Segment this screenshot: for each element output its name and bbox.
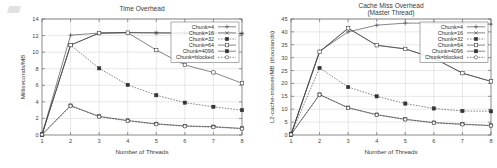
ytick-label-6: 30: [281, 55, 287, 61]
legend-marker-2: [225, 37, 228, 40]
xtick-label-1: 2: [318, 138, 321, 144]
ytick-label-8: 40: [281, 29, 287, 35]
data-point-lg-4: [474, 50, 477, 53]
xtick-label-3: 4: [126, 138, 129, 144]
xtick-label-3: 4: [375, 138, 378, 144]
data-point-5-0: [289, 133, 292, 136]
figure-container: Time Overhead0246810121412345678Number o…: [0, 0, 497, 168]
data-point-2-6: [212, 105, 215, 108]
data-point-5-2: [346, 106, 349, 109]
data-point-3-6: [212, 71, 215, 74]
data-point-5-1: [69, 104, 72, 107]
legend-label-1: Chunk=16: [437, 30, 462, 36]
ytick-label-0: 0: [35, 132, 38, 138]
series-line-4: [291, 95, 491, 135]
xtick-label-0: 1: [289, 138, 292, 144]
xtick-label-4: 5: [403, 138, 406, 144]
legend-label-4: Chunk=4096: [431, 48, 462, 54]
legend-marker-5: [474, 56, 477, 59]
data-point-3-3: [375, 44, 378, 47]
xtick-label-5: 6: [432, 138, 435, 144]
data-point-5-6: [460, 123, 463, 126]
xtick-label-2: 3: [346, 138, 349, 144]
xtick-label-2: 3: [98, 138, 101, 144]
scan-smudge-icon: [7, 6, 21, 13]
data-point-2-3: [126, 83, 129, 86]
ytick-label-9: 45: [281, 16, 287, 22]
xtick-label-6: 7: [212, 138, 215, 144]
legend-label-0: Chunk=4: [192, 24, 214, 30]
data-point-lg-5: [474, 56, 477, 59]
legend-marker-3: [225, 43, 228, 46]
data-point-3-2: [346, 27, 349, 30]
chart-subtitle-1: (Master Thread): [367, 9, 414, 17]
ytick-label-1: 2: [35, 115, 38, 121]
ytick-label-7: 14: [32, 16, 38, 22]
ytick-label-4: 8: [35, 66, 38, 72]
cache-miss-overhead-chart: Cache Miss Overhead(Master Thread)051015…: [249, 0, 497, 168]
data-point-3-6: [460, 71, 463, 74]
data-point-3-4: [403, 47, 406, 50]
series-line-5: [291, 95, 491, 135]
data-point-2-4: [403, 102, 406, 105]
chart-title-0: Time Overhead: [119, 5, 165, 12]
ytick-label-3: 15: [281, 93, 287, 99]
data-point-5-6: [212, 125, 215, 128]
ytick-label-2: 4: [35, 99, 38, 105]
xtick-label-5: 6: [183, 138, 186, 144]
data-point-5-5: [183, 125, 186, 128]
series-line-4: [42, 106, 242, 135]
data-point-lg-5: [225, 56, 228, 59]
data-point-5-7: [489, 124, 492, 127]
ytick-label-0: 0: [284, 132, 287, 138]
data-point-0-7: [488, 22, 492, 26]
xtick-label-7: 8: [489, 138, 492, 144]
data-point-2-2: [97, 67, 100, 70]
xaxis-label-0: Number of Threads: [115, 148, 168, 155]
xaxis-label-1: Number of Threads: [364, 148, 417, 155]
xtick-label-1: 2: [69, 138, 72, 144]
legend-marker-3: [474, 43, 477, 46]
data-point-3-2: [97, 31, 100, 34]
data-point-2-5: [432, 107, 435, 110]
series-chunk-4096: [289, 93, 492, 136]
data-point-5-4: [155, 123, 158, 126]
ytick-label-3: 6: [35, 82, 38, 88]
xtick-label-7: 8: [240, 138, 243, 144]
series-chunk-blocked: [289, 93, 492, 136]
legend-label-4: Chunk=4096: [183, 48, 214, 54]
data-point-5-3: [126, 119, 129, 122]
data-point-0-3: [374, 23, 378, 27]
data-point-3-1: [317, 50, 320, 53]
legend-label-1: Chunk=16: [189, 30, 214, 36]
chart-panel-cache-miss-overhead: Cache Miss Overhead(Master Thread)051015…: [249, 0, 497, 168]
legend-marker-2: [474, 37, 477, 40]
data-point-5-0: [40, 133, 43, 136]
legend-label-2: Chunk=32: [189, 36, 214, 42]
data-point-lg-3: [225, 43, 228, 46]
legend-label-0: Chunk=4: [440, 24, 462, 30]
data-point-lg-4: [225, 50, 228, 53]
ytick-label-7: 35: [281, 42, 287, 48]
data-point-lg-2: [225, 37, 228, 40]
ytick-label-4: 20: [281, 80, 287, 86]
legend-marker-5: [225, 56, 228, 59]
data-point-2-5: [183, 101, 186, 104]
data-point-5-1: [317, 93, 320, 96]
legend-label-3: Chunk=64: [437, 42, 462, 48]
data-point-2-3: [375, 95, 378, 98]
series-line-5: [42, 106, 242, 135]
data-point-0-4: [403, 21, 407, 25]
ytick-label-5: 25: [281, 68, 287, 74]
data-point-2-1: [317, 66, 320, 69]
data-point-5-7: [240, 127, 243, 130]
ytick-label-6: 12: [32, 33, 38, 39]
data-point-0-1: [68, 33, 72, 37]
yaxis-label-1: L2-cache-misses/MB (thousands): [268, 31, 275, 123]
legend-label-5: Chunk=blocked: [424, 54, 462, 60]
data-point-3-1: [69, 43, 72, 46]
legend-label-2: Chunk=32: [437, 36, 462, 42]
time-overhead-chart: Time Overhead0246810121412345678Number o…: [0, 0, 249, 168]
data-point-2-7: [489, 110, 492, 113]
data-point-5-2: [97, 115, 100, 118]
